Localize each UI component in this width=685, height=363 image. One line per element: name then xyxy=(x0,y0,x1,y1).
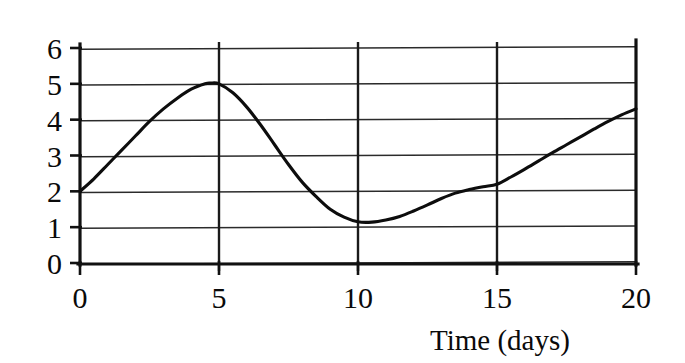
y-tick-label-1: 1 xyxy=(47,211,62,244)
y-axis-tick-labels-group: 0123456 xyxy=(47,32,62,280)
chart-figure: 0123456 05101520 Time (days) xyxy=(0,0,685,363)
y-tick-label-5: 5 xyxy=(47,68,62,101)
line-chart-svg: 0123456 05101520 Time (days) xyxy=(0,0,685,363)
x-tick-label-5: 5 xyxy=(212,281,227,314)
y-tick-label-6: 6 xyxy=(47,32,62,65)
x-tick-label-0: 0 xyxy=(73,281,88,314)
y-tick-label-4: 4 xyxy=(47,104,62,137)
x-tick-label-15: 15 xyxy=(482,281,512,314)
y-tick-label-2: 2 xyxy=(47,175,62,208)
y-tick-label-3: 3 xyxy=(47,140,62,173)
x-axis-tick-labels-group: 05101520 xyxy=(73,281,652,314)
x-axis-title: Time (days) xyxy=(430,324,570,357)
x-tick-label-10: 10 xyxy=(343,281,373,314)
x-tick-label-20: 20 xyxy=(621,281,651,314)
y-tick-label-0: 0 xyxy=(47,247,62,280)
